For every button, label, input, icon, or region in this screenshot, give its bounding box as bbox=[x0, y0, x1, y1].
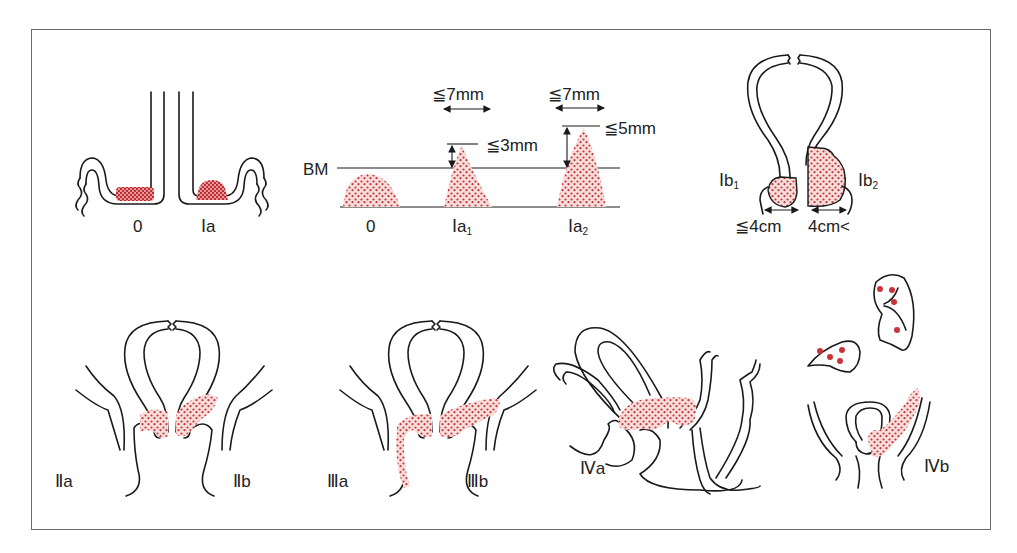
label-micro-Ia2: Ⅰa2 bbox=[568, 217, 588, 237]
depth-Ia2: ≦5mm bbox=[604, 119, 656, 138]
label-IIIb: Ⅲb bbox=[467, 472, 488, 491]
label-IVb: Ⅳb bbox=[924, 457, 949, 476]
liver-icon bbox=[808, 341, 860, 372]
label-IIIa: Ⅲa bbox=[327, 472, 349, 491]
tumor-IVa-icon bbox=[618, 397, 696, 430]
tumor-IVb-icon bbox=[868, 388, 920, 457]
label-basement-membrane: BM bbox=[303, 160, 329, 179]
panel-stage-Ib: Ⅰb1 Ⅰb2 ≦4cm 4cm< bbox=[719, 55, 878, 236]
label-micro-Ia1: Ⅰa1 bbox=[452, 217, 472, 237]
tumor-stage0-icon bbox=[116, 187, 154, 201]
panel-stage-IVa: Ⅳa bbox=[554, 328, 760, 494]
label-stage-0: 0 bbox=[133, 217, 142, 236]
label-Ib2: Ⅰb2 bbox=[858, 171, 878, 191]
depth-Ia1: ≦3mm bbox=[486, 136, 538, 155]
size-Ib2: 4cm< bbox=[808, 217, 850, 236]
width-Ia1: ≦7mm bbox=[432, 85, 484, 104]
tumor-stage-Ia-icon bbox=[196, 180, 228, 200]
panel-stage-III: Ⅲa Ⅲb bbox=[327, 321, 536, 496]
panel-stage0-Ia: 0 Ⅰa bbox=[76, 92, 268, 236]
label-IIa: Ⅱa bbox=[55, 472, 73, 491]
lesion-Ia1-icon bbox=[444, 145, 492, 207]
label-Ib1: Ⅰb1 bbox=[719, 171, 739, 191]
size-Ib1: ≦4cm bbox=[735, 217, 781, 236]
width-Ia2: ≦7mm bbox=[548, 85, 600, 104]
label-stage-Ia: Ⅰa bbox=[201, 217, 216, 236]
staging-diagram: 0 Ⅰa BM ≦7mm ≦3mm ≦7mm ≦5mm 0 Ⅰa1 Ⅰa2 bbox=[0, 0, 1017, 553]
tumor-IIIa-icon bbox=[396, 414, 432, 488]
lesion-Ib1-icon bbox=[768, 177, 797, 207]
lesion-Ib2-icon bbox=[808, 147, 845, 206]
label-IIb: Ⅱb bbox=[233, 472, 251, 491]
panel-stage-IVb: Ⅳb bbox=[808, 275, 949, 488]
panel-microinvasion: BM ≦7mm ≦3mm ≦7mm ≦5mm 0 Ⅰa1 Ⅰa2 bbox=[303, 85, 656, 237]
label-micro-0: 0 bbox=[366, 217, 375, 236]
tumor-IIIb-icon bbox=[440, 398, 500, 437]
panel-stage-II: Ⅱa Ⅱb bbox=[55, 321, 272, 496]
label-IVa: Ⅳa bbox=[580, 459, 606, 478]
lesion-stage0-icon bbox=[343, 174, 400, 207]
